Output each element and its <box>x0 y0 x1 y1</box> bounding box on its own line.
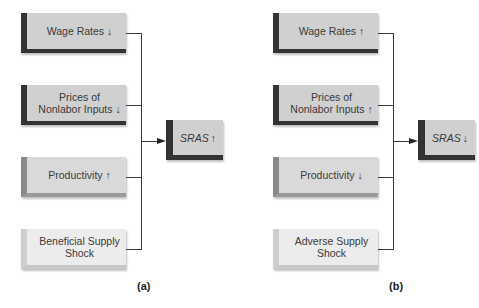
connector-line <box>126 105 141 106</box>
factor-box-nonlabor-prices: Prices of Nonlabor Inputs ↓ <box>21 85 126 125</box>
result-label: SRAS <box>180 132 209 144</box>
connector-line <box>378 249 393 250</box>
panel-label: (a) <box>137 280 150 292</box>
panel-label: (b) <box>389 280 403 292</box>
factor-label: Wage Rates ↓ <box>47 25 113 38</box>
down-arrow-icon: ↓ <box>463 132 468 144</box>
panel-b: Wage Rates ↑ Prices of Nonlabor Inputs ↑… <box>252 0 479 308</box>
connector-line <box>126 33 141 34</box>
result-box-sras: SRAS ↑ <box>166 120 223 160</box>
factor-label: Wage Rates ↑ <box>299 25 365 38</box>
factor-box-wage-rates: Wage Rates ↓ <box>21 13 126 53</box>
connector-line <box>126 177 141 178</box>
connector-line <box>378 33 393 34</box>
arrow-head-icon <box>409 138 418 144</box>
factor-label: Prices of Nonlabor Inputs ↑ <box>289 91 374 116</box>
up-arrow-icon: ↑ <box>211 132 216 144</box>
factor-label: Adverse Supply Shock <box>289 235 374 260</box>
arrow-shaft <box>141 141 158 142</box>
connector-line <box>378 177 393 178</box>
panel-a: Wage Rates ↓ Prices of Nonlabor Inputs ↓… <box>0 0 240 308</box>
factor-box-wage-rates: Wage Rates ↑ <box>273 13 378 53</box>
result-box-sras: SRAS ↓ <box>418 120 475 160</box>
factor-box-productivity: Productivity ↑ <box>21 157 126 197</box>
factor-label: Beneficial Supply Shock <box>37 235 122 260</box>
factor-label: Productivity ↑ <box>48 169 110 182</box>
factor-box-supply-shock: Beneficial Supply Shock <box>21 229 126 269</box>
factor-label: Productivity ↓ <box>300 169 362 182</box>
connector-line <box>378 105 393 106</box>
connector-line <box>126 249 141 250</box>
factor-box-nonlabor-prices: Prices of Nonlabor Inputs ↑ <box>273 85 378 125</box>
factor-box-productivity: Productivity ↓ <box>273 157 378 197</box>
result-label: SRAS <box>432 132 461 144</box>
arrow-head-icon <box>157 138 166 144</box>
factor-label: Prices of Nonlabor Inputs ↓ <box>37 91 122 116</box>
arrow-shaft <box>393 141 410 142</box>
factor-box-supply-shock: Adverse Supply Shock <box>273 229 378 269</box>
